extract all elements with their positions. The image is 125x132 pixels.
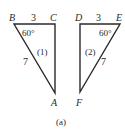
triangle-diagram: B 3 C 60° (1) 7 A D 3 E 60° (2) 7 F (a) (0, 0, 125, 132)
vertex-label-b: B (9, 12, 15, 23)
side-label-de: 3 (96, 12, 101, 23)
triangle-2-id: (2) (85, 47, 96, 57)
angle-label-e: 60° (99, 28, 112, 38)
triangle-1-id: (1) (37, 47, 48, 57)
side-label-bc: 3 (31, 12, 36, 23)
side-label-ef: 7 (101, 56, 106, 67)
vertex-label-c: C (50, 12, 57, 23)
side-label-ba: 7 (23, 56, 28, 67)
vertex-label-f: F (75, 97, 83, 108)
vertex-label-e: E (115, 12, 122, 23)
vertex-label-d: D (74, 12, 83, 23)
figure-caption: (a) (56, 117, 66, 127)
vertex-label-a: A (50, 97, 58, 108)
angle-label-b: 60° (22, 28, 35, 38)
